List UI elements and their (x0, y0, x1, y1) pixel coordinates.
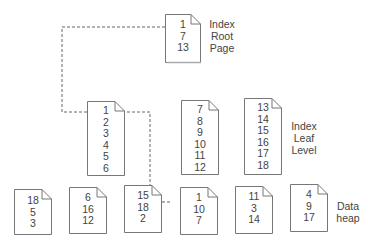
key-value: 1 (165, 19, 201, 31)
key-value: 13 (165, 42, 201, 54)
index-structure-diagram: 1 7 13 Index Root Page 1 2 3 4 5 6 7 (0, 0, 368, 246)
index-root-page: 1 7 13 (165, 14, 201, 63)
heap-page-2: 6 16 12 (69, 187, 107, 234)
heap-page-5: 11 3 14 (235, 186, 273, 234)
index-leaf-page-1: 1 2 3 4 5 6 (87, 101, 125, 176)
index-leaf-page-3: 13 14 15 16 17 18 (244, 98, 282, 175)
heap-page-6: 4 9 17 (290, 184, 328, 232)
heap-page-3: 15 18 2 (124, 185, 162, 233)
index-root-page-label: Index Root Page (205, 18, 239, 54)
heap-page-4: 1 10 7 (180, 187, 218, 235)
index-leaf-page-2: 7 8 9 10 11 12 (181, 100, 219, 175)
data-heap-label: Data heap (333, 200, 363, 224)
heap-page-1: 18 5 3 (14, 189, 52, 235)
index-leaf-level-label: Index Leaf Level (286, 120, 322, 156)
